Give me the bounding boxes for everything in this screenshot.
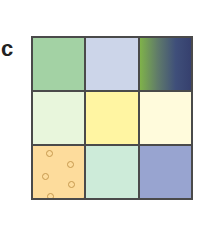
circle-dot-icon: [47, 193, 54, 199]
grid-cell-r0-c1: [85, 37, 138, 91]
circle-dot-icon: [68, 181, 75, 188]
circle-dot-icon: [67, 161, 74, 168]
grid-cell-r2-c2: [139, 145, 192, 199]
grid-cell-r2-c1: [85, 145, 138, 199]
grid-cell-r2-c0: [32, 145, 85, 199]
panel-label: c: [1, 38, 13, 60]
grid-cell-r0-c0: [32, 37, 85, 91]
grid-cell-r1-c0: [32, 91, 85, 145]
grid-cell-r1-c1: [85, 91, 138, 145]
circle-dot-icon: [42, 173, 49, 180]
grid-cell-r0-c2: [139, 37, 192, 91]
grid-cell-r1-c2: [139, 91, 192, 145]
color-grid: [31, 36, 193, 200]
circle-dot-icon: [46, 150, 53, 157]
